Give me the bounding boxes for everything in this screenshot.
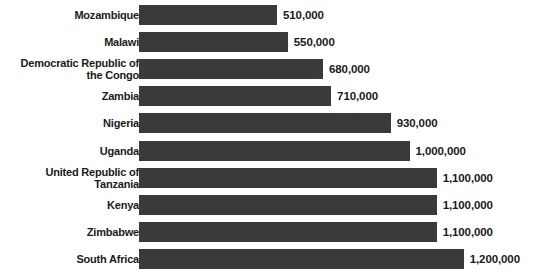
bar-category-label: Kenya [3,199,139,211]
bar-category-label: South Africa [3,253,139,265]
bar [139,141,410,161]
bar-category-label: Nigeria [3,117,139,129]
bar [139,86,331,106]
bar [139,222,437,242]
bar-category-label: Uganda [3,145,139,157]
bar [139,168,437,188]
bar-value-label: 510,000 [283,9,324,21]
bar-value-label: 1,100,000 [443,199,493,211]
bar-value-label: 550,000 [294,36,335,48]
bar-category-label: Mozambique [3,9,139,21]
bar-category-label: Malawi [3,36,139,48]
bar-value-label: 930,000 [397,117,438,129]
bar-chart: Mozambique510,000Malawi550,000Democratic… [0,0,534,276]
bar [139,5,277,25]
bar-row: South Africa1,200,000 [0,249,534,269]
bar-row: United Republic of Tanzania1,100,000 [0,168,534,188]
chart-plot-area: Mozambique510,000Malawi550,000Democratic… [0,0,534,276]
bar [139,59,323,79]
bar-row: Nigeria930,000 [0,113,534,133]
bar-value-label: 710,000 [337,90,378,102]
bar-row: Zimbabwe1,100,000 [0,222,534,242]
bar-category-label: Zimbabwe [3,226,139,238]
bar-row: Uganda1,000,000 [0,141,534,161]
bar-value-label: 680,000 [329,63,370,75]
bar [139,249,464,269]
bar-row: Mozambique510,000 [0,5,534,25]
bar-value-label: 1,000,000 [416,145,466,157]
bar-row: Kenya1,100,000 [0,195,534,215]
bar-row: Malawi550,000 [0,32,534,52]
bar [139,113,391,133]
bar-row: Democratic Republic of the Congo680,000 [0,59,534,79]
bar [139,32,288,52]
bar-category-label: Democratic Republic of the Congo [3,57,139,81]
bar-row: Zambia710,000 [0,86,534,106]
bar-value-label: 1,100,000 [443,172,493,184]
bar-value-label: 1,100,000 [443,226,493,238]
bar-category-label: Zambia [3,90,139,102]
bar [139,195,437,215]
bar-category-label: United Republic of Tanzania [3,166,139,190]
bar-value-label: 1,200,000 [470,253,520,265]
